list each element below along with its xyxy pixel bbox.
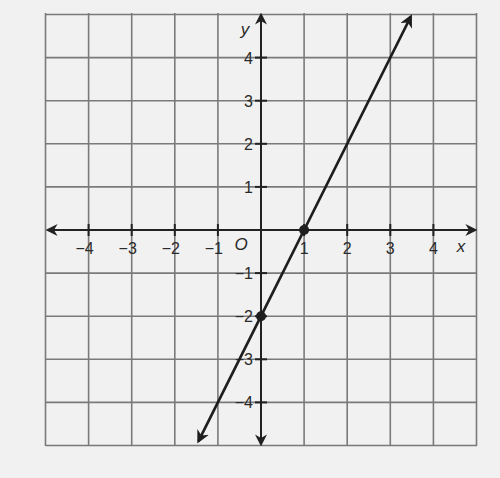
data-point (256, 311, 266, 321)
x-axis-label: x (456, 237, 466, 256)
origin-label: O (234, 235, 247, 254)
y-axis-label: y (240, 20, 251, 39)
y-tick-label: −2 (235, 308, 253, 325)
coordinate-plane: −4−3−2−112344321−1−2−3−4xyO (0, 0, 500, 478)
x-tick-label: −3 (119, 240, 137, 257)
x-tick-label: −1 (205, 240, 223, 257)
x-tick-label: −2 (162, 240, 180, 257)
x-tick-label: −4 (75, 240, 93, 257)
x-tick-label: 3 (386, 240, 395, 257)
y-tick-label: 3 (244, 93, 253, 110)
axes (48, 15, 475, 444)
y-tick-label: −1 (235, 265, 253, 282)
y-tick-label: 1 (244, 179, 253, 196)
tick-labels: −4−3−2−112344321−1−2−3−4xyO (75, 20, 465, 411)
y-tick-label: −4 (235, 394, 253, 411)
y-tick-label: 4 (244, 50, 253, 67)
data-point (299, 225, 309, 235)
x-tick-label: 2 (343, 240, 352, 257)
x-tick-label: 1 (300, 240, 309, 257)
x-tick-label: 4 (429, 240, 438, 257)
y-tick-label: 2 (244, 136, 253, 153)
